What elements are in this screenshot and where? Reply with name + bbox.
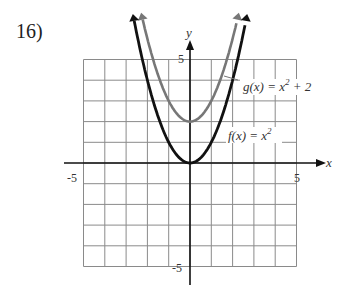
x-tick-max-value: 5 <box>294 171 300 185</box>
x-tick-min: -5 <box>67 171 77 185</box>
f-of-x-arrow-icon <box>241 14 251 22</box>
x-axis-arrow-icon <box>316 159 326 167</box>
y-axis-label: y <box>184 25 192 40</box>
f-of-x-arrow-icon <box>129 14 139 22</box>
y-tick-min: -5 <box>172 261 182 275</box>
f-of-x-label: f(x) = x2 <box>228 126 272 143</box>
graph: xy-555-5g(x) = x2 + 2f(x) = x2 <box>0 0 347 289</box>
x-axis-label: x <box>325 155 332 170</box>
y-tick-max: 5 <box>178 52 184 66</box>
g-of-x-arrow-icon <box>138 13 148 21</box>
y-axis-arrow-icon <box>186 40 194 50</box>
g-of-x-label: g(x) = x2 + 2 <box>243 77 312 94</box>
labels: xy-555-5g(x) = x2 + 2f(x) = x2 <box>67 25 332 275</box>
g-of-x-arrow-icon <box>232 13 242 21</box>
